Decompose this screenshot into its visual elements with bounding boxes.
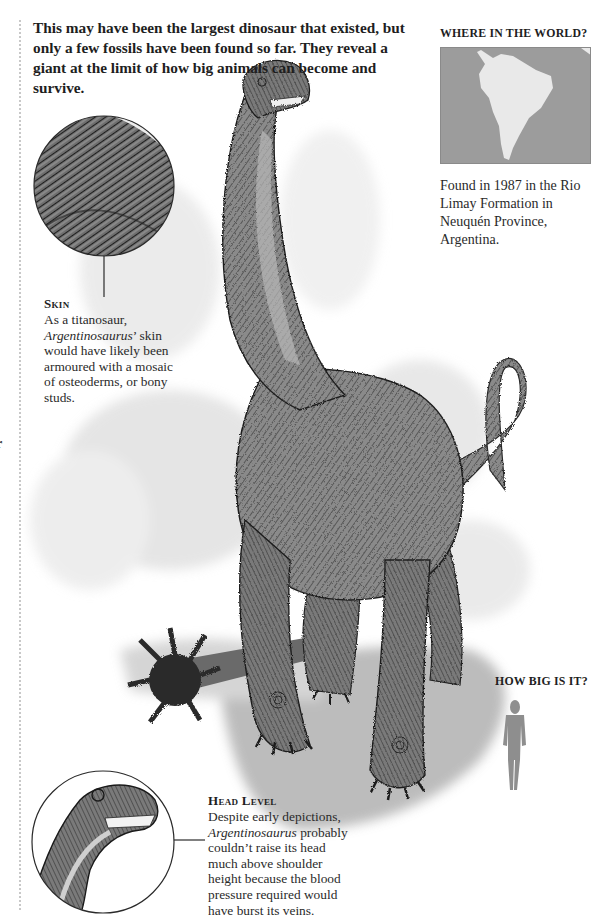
where-in-world-heading: WHERE IN THE WORLD? bbox=[440, 26, 587, 41]
discovery-location-caption: Found in 1987 in the Rio Limay Formation… bbox=[440, 177, 605, 249]
location-map bbox=[440, 47, 591, 164]
head-level-callout: Head Level Despite early depictions, Arg… bbox=[208, 793, 348, 918]
head-closeup-circle bbox=[30, 770, 205, 915]
south-america-map-icon bbox=[441, 48, 591, 164]
intro-paragraph: This may have been the largest dinosaur … bbox=[33, 18, 405, 98]
skin-callout-body: As a titanosaur, Argentinosaurus’ skin w… bbox=[44, 312, 184, 406]
how-big-is-it-heading: HOW BIG IS IT? bbox=[495, 674, 588, 689]
skin-body-text: As a titanosaur, bbox=[44, 312, 127, 327]
skin-callout: Skin As a titanosaur, Argentinosaurus’ s… bbox=[44, 296, 184, 406]
head-body-text: Despite early depictions, bbox=[208, 809, 341, 824]
species-name-italic: Argentinosaurus bbox=[44, 328, 133, 343]
skin-closeup-circle bbox=[30, 110, 180, 297]
species-name-italic: Argentinosaurus bbox=[208, 825, 297, 840]
human-scale-silhouette bbox=[503, 700, 526, 790]
head-level-callout-title: Head Level bbox=[208, 793, 348, 809]
head-level-callout-body: Despite early depictions, Argentinosauru… bbox=[208, 809, 348, 918]
cut-off-text-fragment: r bbox=[0, 436, 2, 452]
fallen-tree-log bbox=[128, 628, 355, 722]
margin-dotted-rule bbox=[19, 20, 21, 910]
dinosaur-body bbox=[223, 61, 526, 800]
skin-callout-title: Skin bbox=[44, 296, 184, 312]
